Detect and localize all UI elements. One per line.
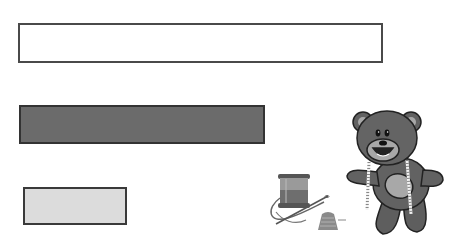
thimble-icon xyxy=(318,212,338,230)
short-light-gray-bar xyxy=(23,187,127,225)
teddy-bear-icon xyxy=(343,100,447,238)
sewing-kit-icon xyxy=(266,168,348,234)
medium-dark-gray-bar xyxy=(19,105,265,144)
long-white-bar xyxy=(18,23,383,63)
spool-icon xyxy=(278,174,310,208)
